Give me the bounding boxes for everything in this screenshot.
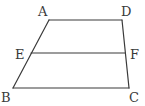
vertex-label-b: B: [1, 90, 11, 105]
vertex-label-f: F: [130, 47, 139, 62]
trapezoid-diagram: A D E F B C: [0, 0, 145, 106]
vertex-label-a: A: [37, 4, 48, 19]
vertex-label-d: D: [121, 4, 131, 19]
vertex-label-c: C: [129, 90, 139, 105]
segment-dc: [122, 20, 129, 88]
vertex-label-e: E: [15, 47, 25, 62]
